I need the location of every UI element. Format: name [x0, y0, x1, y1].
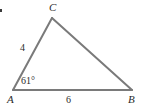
side-length-label-ac: 4 — [20, 43, 25, 53]
vertex-label-c: C — [49, 2, 56, 13]
vertex-label-b: B — [128, 94, 135, 105]
triangle-side-cb — [52, 18, 132, 90]
side-length-label-ab: 6 — [66, 95, 71, 105]
triangle-figure: C A B 4 6 61° — [0, 0, 141, 110]
vertex-label-a: A — [7, 94, 14, 105]
angle-label-a: 61° — [21, 76, 35, 86]
